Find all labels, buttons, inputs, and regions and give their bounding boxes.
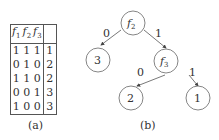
edge-label-inner-left: 0 — [137, 66, 144, 79]
edge-label-inner-right: 1 — [189, 66, 196, 79]
decision-tree: 0 1 0 1 f2 3 f3 2 1 (b) — [0, 0, 219, 140]
node-left-leaf-label: 3 — [94, 54, 101, 67]
node-inner-left-leaf-label: 2 — [127, 92, 134, 105]
node-inner-right-leaf-label: 1 — [194, 92, 201, 105]
edge-label-root-left: 0 — [103, 27, 110, 40]
edge-label-root-right: 1 — [155, 27, 162, 40]
caption-b: (b) — [140, 119, 156, 132]
